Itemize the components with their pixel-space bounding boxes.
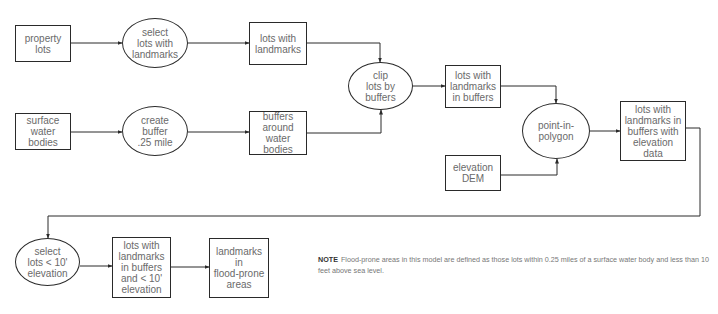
note-label: NOTE bbox=[318, 255, 338, 264]
node-label: lots with landmarks in buffers and < 10'… bbox=[117, 240, 165, 295]
node-lots-with-elevation-dataset: lots with landmarks in buffers with elev… bbox=[620, 101, 686, 161]
arrow-lots-with-landmarks-to-clip-lots bbox=[307, 43, 380, 62]
node-label: clip lots by buffers bbox=[364, 70, 396, 103]
arrow-buffers-around-water-to-clip-lots bbox=[307, 110, 381, 133]
node-lots-buffers-elevation-dataset: lots with landmarks in buffers and < 10'… bbox=[112, 237, 171, 298]
node-flood-prone-landmarks-dataset: landmarks in flood-prone areas bbox=[209, 238, 269, 298]
node-label: landmarks in flood-prone areas bbox=[210, 246, 268, 290]
arrow-elevation-dem-to-point-in-polygon bbox=[501, 159, 557, 175]
node-elevation-dem-dataset: elevation DEM bbox=[445, 155, 501, 191]
note-body: Flood-prone areas in this model are defi… bbox=[318, 255, 709, 275]
node-lots-in-buffers-dataset: lots with landmarks in buffers bbox=[445, 65, 501, 108]
node-label: select lots < 10' elevation bbox=[26, 246, 68, 279]
node-select-lots-elevation-process: select lots < 10' elevation bbox=[15, 238, 80, 286]
node-label: lots with landmarks in buffers with elev… bbox=[621, 104, 685, 159]
node-label: select lots with landmarks bbox=[131, 27, 179, 60]
node-label: elevation DEM bbox=[452, 162, 494, 184]
node-property-lots-dataset: property lots bbox=[15, 25, 71, 62]
node-label: buffers around water bodies bbox=[250, 111, 306, 155]
node-select-lots-landmarks-process: select lots with landmarks bbox=[122, 18, 188, 68]
arrow-lots-in-buffers-to-point-in-polygon bbox=[501, 86, 556, 103]
note-text: NOTEFlood-prone areas in this model are … bbox=[318, 254, 718, 276]
node-label: property lots bbox=[24, 33, 63, 55]
node-label: create buffer .25 mile bbox=[136, 115, 173, 148]
node-label: lots with landmarks in buffers bbox=[449, 70, 497, 103]
node-clip-lots-process: clip lots by buffers bbox=[348, 62, 413, 110]
node-create-buffer-process: create buffer .25 mile bbox=[122, 106, 188, 156]
node-point-in-polygon-process: point-in- polygon bbox=[522, 103, 590, 159]
node-surface-water-dataset: surface water bodies bbox=[15, 113, 71, 150]
node-label: lots with landmarks bbox=[254, 33, 302, 55]
node-label: point-in- polygon bbox=[537, 120, 575, 142]
node-lots-with-landmarks-dataset: lots with landmarks bbox=[249, 22, 307, 65]
node-label: surface water bodies bbox=[16, 115, 70, 148]
node-buffers-around-water-dataset: buffers around water bodies bbox=[249, 111, 307, 155]
